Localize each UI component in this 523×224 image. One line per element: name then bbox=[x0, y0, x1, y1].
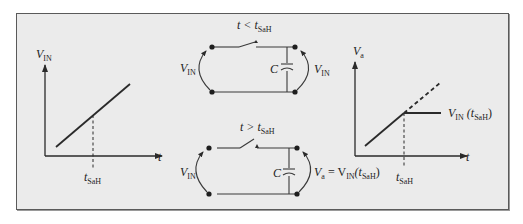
sample-time-label: tSaH bbox=[396, 170, 413, 186]
held-voltage-equation: Va = VIN(tSaH) bbox=[314, 165, 380, 181]
terminal-dot bbox=[294, 191, 299, 196]
terminal-dot bbox=[209, 44, 214, 49]
terminal-dot bbox=[206, 145, 211, 150]
terminal-dot bbox=[292, 89, 297, 94]
terminal-dot bbox=[206, 191, 211, 196]
input-voltage-label-text: VIN bbox=[180, 165, 196, 181]
terminal-dot bbox=[209, 89, 214, 94]
continued-input-dashed bbox=[404, 83, 440, 113]
output-voltage-label: VIN bbox=[314, 62, 330, 78]
cap-plate-bottom bbox=[283, 173, 295, 175]
sample-time-label: tSaH bbox=[84, 170, 101, 186]
track-condition-label: t < tSaH bbox=[237, 18, 272, 34]
track-ramp-line bbox=[365, 113, 404, 146]
terminal-dot bbox=[292, 44, 297, 49]
terminal-dot bbox=[294, 145, 299, 150]
right-graph: Va t tSaH VIN (tSaH) bbox=[353, 44, 492, 186]
left-graph: VIN t tSaH bbox=[36, 47, 162, 186]
output-voltage-arrow bbox=[297, 51, 309, 90]
capacitor-label: C bbox=[273, 166, 282, 180]
switch-contact-icon bbox=[255, 144, 259, 148]
y-axis-label: Va bbox=[353, 44, 364, 60]
x-axis-label: t bbox=[466, 150, 470, 164]
sample-and-hold-diagram: VIN t tSaH t < tSaH VIN C VIN t > tSaH bbox=[0, 0, 523, 224]
hold-level-label: VIN (tSaH) bbox=[448, 106, 492, 122]
cap-plate-bottom bbox=[281, 68, 293, 70]
hold-condition-label: t > tSaH bbox=[240, 120, 275, 136]
input-voltage-arrow bbox=[199, 51, 210, 90]
circuit-hold-mode: t > tSaH IN VIN C Va = VIN(tSaH) bbox=[180, 120, 380, 197]
input-voltage-label: VIN bbox=[180, 61, 196, 77]
output-voltage-arrow bbox=[299, 152, 311, 192]
circuit-track-mode: t < tSaH VIN C VIN bbox=[180, 18, 330, 95]
switch-contact-icon bbox=[254, 40, 258, 43]
switch-closed bbox=[239, 42, 255, 47]
x-axis-label: t bbox=[158, 150, 162, 164]
capacitor-label: C bbox=[270, 62, 279, 76]
switch-open bbox=[240, 139, 254, 148]
input-voltage-arrow bbox=[196, 152, 207, 192]
y-axis-label: VIN bbox=[36, 47, 52, 63]
